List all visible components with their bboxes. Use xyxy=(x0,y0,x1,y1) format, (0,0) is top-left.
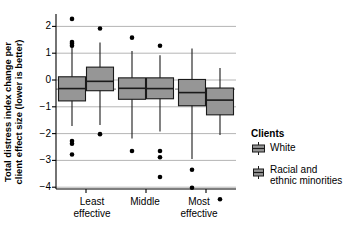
outlier-point xyxy=(98,26,103,31)
outlier-point xyxy=(130,149,135,154)
outlier-point xyxy=(218,197,223,202)
outlier-point xyxy=(158,175,163,180)
outlier-point xyxy=(70,43,75,48)
outlier-point xyxy=(70,141,75,146)
outlier-point xyxy=(190,167,195,172)
box-rect xyxy=(207,88,234,115)
legend-title: Clients xyxy=(251,128,284,139)
box-rect xyxy=(87,67,114,91)
outlier-point xyxy=(190,185,195,190)
outlier-point xyxy=(158,155,163,160)
boxplot-figure: Total distress index change per client e… xyxy=(0,0,349,241)
outlier-point xyxy=(158,43,163,48)
outlier-point xyxy=(158,149,163,154)
legend-key-minorities-icon xyxy=(251,165,266,180)
plot-area xyxy=(0,0,349,241)
legend-label-minorities: Racial and ethnic minorities xyxy=(270,164,342,186)
legend-label-white: White xyxy=(270,142,296,153)
legend-key-white-icon xyxy=(251,141,266,156)
outlier-point xyxy=(70,152,75,157)
outlier-point xyxy=(98,132,103,137)
outlier-point xyxy=(70,17,75,22)
outlier-point xyxy=(130,35,135,40)
